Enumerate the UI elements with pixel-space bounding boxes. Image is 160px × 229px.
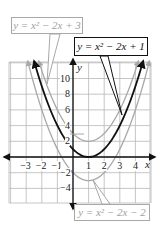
- y-axis-label: y: [77, 62, 82, 72]
- x-tick-label: 2: [102, 161, 107, 171]
- label-lower-curve: y = x² − 2x − 2: [74, 204, 150, 221]
- label-pointers: [47, 34, 122, 204]
- x-tick-label: 4: [133, 161, 138, 171]
- y-tick-label: −2: [60, 168, 71, 178]
- y-tick-label: 10: [60, 74, 70, 84]
- x-tick-label: 3: [117, 161, 122, 171]
- y-tick-label: 8: [65, 89, 70, 99]
- y-tick-label: −4: [60, 183, 71, 193]
- x-axis-label: x: [145, 159, 150, 169]
- label-upper-curve: y = x² − 2x + 3: [11, 17, 83, 34]
- label-middle-curve: y = x² − 2x + 1: [74, 37, 148, 56]
- graph-figure: [0, 0, 160, 229]
- x-tick-label: −3: [20, 161, 31, 171]
- pointer-lower: [93, 180, 110, 204]
- pointer-middle: [100, 56, 122, 115]
- coordinate-grid: [9, 62, 151, 203]
- y-tick-label: 4: [65, 121, 70, 131]
- y-tick-label: 6: [65, 105, 70, 115]
- x-tick-label: 1: [86, 161, 91, 171]
- pointer-upper: [47, 34, 60, 84]
- x-tick-label: −2: [36, 161, 47, 171]
- y-tick-label: 2: [65, 136, 70, 146]
